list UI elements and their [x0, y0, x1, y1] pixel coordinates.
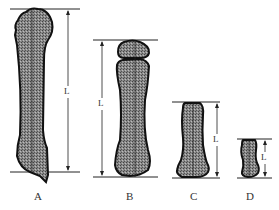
bone-a-label: A	[34, 190, 42, 202]
bone-a-length-label: L	[64, 86, 70, 96]
bone-a-shape	[15, 8, 53, 182]
bone-d-shape	[241, 140, 259, 177]
bone-c-label: C	[190, 190, 197, 202]
bone-b	[93, 40, 158, 177]
bone-d-label: D	[246, 190, 254, 202]
bone-b-label: B	[126, 190, 133, 202]
bone-d	[237, 139, 272, 178]
bone-a	[10, 8, 80, 182]
bone-d-length-label: L	[261, 152, 267, 162]
bone-diagram	[0, 0, 279, 210]
bone-c-length-label: L	[213, 134, 219, 144]
bone-b-shape	[115, 59, 150, 176]
bone-b-phalanx-top	[118, 41, 149, 59]
bone-b-length-label: L	[98, 98, 104, 108]
